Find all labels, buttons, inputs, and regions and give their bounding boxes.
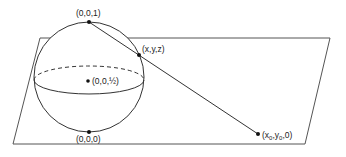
sphere-point <box>137 53 141 57</box>
stereographic-projection-diagram: (0,0,1) (x,y,z) (0,0,½) (0,0,0) (x0,y0,0… <box>0 0 346 157</box>
plane-point <box>256 132 260 136</box>
south-pole-label: (0,0,0) <box>76 134 101 144</box>
sphere-point-label: (x,y,z) <box>142 44 165 54</box>
center-point <box>86 79 90 83</box>
north-pole-point <box>87 20 91 24</box>
center-label: (0,0,½) <box>92 76 119 86</box>
plane-point-label: (x0,y0,0) <box>262 130 292 141</box>
north-pole-label: (0,0,1) <box>76 8 101 18</box>
